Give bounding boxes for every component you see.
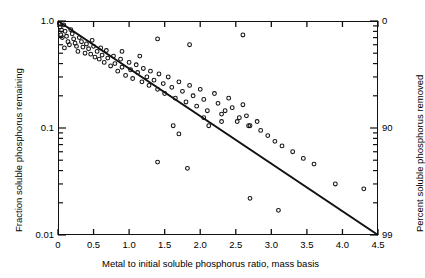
data-point bbox=[216, 101, 220, 105]
data-point bbox=[266, 134, 270, 138]
axis-tick-label: 3.5 bbox=[287, 239, 327, 250]
data-point bbox=[227, 96, 231, 100]
data-point bbox=[191, 94, 195, 98]
data-point bbox=[106, 56, 110, 60]
data-point bbox=[138, 54, 142, 58]
data-point bbox=[72, 37, 76, 41]
data-point bbox=[109, 64, 113, 68]
y-axis-title-left: Fraction soluble phosphorus remaining bbox=[13, 68, 24, 232]
data-point bbox=[140, 80, 144, 84]
data-point bbox=[97, 57, 101, 61]
data-point bbox=[312, 162, 316, 166]
axis-tick-label: 1.0 bbox=[109, 239, 149, 250]
data-point bbox=[188, 43, 192, 47]
data-point bbox=[230, 106, 234, 110]
data-point bbox=[63, 29, 67, 33]
axis-tick-label: 90 bbox=[382, 122, 393, 133]
data-point bbox=[170, 85, 174, 89]
data-point bbox=[95, 49, 99, 53]
data-point bbox=[120, 49, 124, 53]
axis-tick-label: 2.0 bbox=[180, 239, 220, 250]
data-point bbox=[220, 120, 224, 124]
data-point bbox=[93, 55, 97, 59]
axis-tick-label: 99 bbox=[382, 229, 393, 240]
data-point bbox=[207, 124, 211, 128]
data-points bbox=[58, 21, 366, 212]
data-point bbox=[81, 45, 85, 49]
axis-tick-label: 1.0 bbox=[18, 15, 54, 26]
regression-line bbox=[58, 21, 378, 235]
data-point bbox=[273, 139, 277, 143]
data-point bbox=[291, 150, 295, 154]
data-point bbox=[85, 42, 89, 46]
data-point bbox=[63, 46, 67, 50]
axis-tick-label: 2.5 bbox=[216, 239, 256, 250]
data-point bbox=[124, 74, 128, 78]
axis-tick-label: 0 bbox=[382, 15, 387, 26]
data-point bbox=[181, 89, 185, 93]
fit-line bbox=[58, 21, 378, 235]
y-axis-ticks-right bbox=[370, 21, 378, 235]
y-axis-ticks-left bbox=[58, 21, 66, 235]
data-point bbox=[157, 72, 161, 76]
data-point bbox=[255, 120, 259, 124]
data-point bbox=[83, 51, 87, 55]
data-point bbox=[141, 67, 145, 71]
data-point bbox=[241, 103, 245, 107]
data-point bbox=[202, 98, 206, 102]
data-point bbox=[186, 166, 190, 170]
data-point bbox=[119, 57, 123, 61]
data-point bbox=[113, 62, 117, 66]
axis-tick-label: 1.5 bbox=[145, 239, 185, 250]
data-point bbox=[120, 65, 124, 69]
data-point bbox=[145, 75, 149, 79]
data-point bbox=[213, 92, 217, 96]
data-point bbox=[333, 182, 337, 186]
data-point bbox=[134, 63, 138, 67]
y-axis-title-right: Percent soluble phosphorus removed bbox=[414, 75, 425, 232]
data-point bbox=[90, 38, 94, 42]
data-point bbox=[220, 112, 224, 116]
data-point bbox=[100, 53, 104, 57]
data-point bbox=[156, 37, 160, 41]
data-point bbox=[205, 109, 209, 113]
data-point bbox=[87, 47, 91, 51]
data-point bbox=[188, 84, 192, 88]
data-point bbox=[280, 144, 284, 148]
data-point bbox=[195, 104, 199, 108]
data-point bbox=[362, 187, 366, 191]
data-point bbox=[65, 34, 69, 38]
data-point bbox=[198, 87, 202, 91]
axis-tick-label: 0 bbox=[38, 239, 78, 250]
data-point bbox=[80, 40, 84, 44]
data-point bbox=[277, 208, 281, 212]
axis-tick-label: 0.5 bbox=[74, 239, 114, 250]
data-point bbox=[259, 128, 263, 132]
axis-tick-label: 4.0 bbox=[322, 239, 362, 250]
data-point bbox=[76, 49, 80, 53]
data-point bbox=[245, 114, 249, 118]
data-point bbox=[177, 80, 181, 84]
data-point bbox=[235, 120, 239, 124]
data-point bbox=[147, 84, 151, 88]
data-point bbox=[127, 61, 131, 65]
data-point bbox=[70, 32, 74, 36]
data-point bbox=[116, 69, 120, 73]
data-point bbox=[184, 100, 188, 104]
data-point bbox=[237, 116, 241, 120]
data-point bbox=[89, 52, 93, 56]
data-point bbox=[152, 78, 156, 82]
data-point bbox=[241, 33, 245, 37]
data-point bbox=[149, 69, 153, 73]
data-point bbox=[248, 196, 252, 200]
data-point bbox=[156, 160, 160, 164]
data-point bbox=[131, 77, 135, 81]
data-point bbox=[301, 156, 305, 160]
data-point bbox=[223, 109, 227, 113]
data-point bbox=[166, 75, 170, 79]
axis-tick-label: 3.0 bbox=[251, 239, 291, 250]
data-point bbox=[161, 82, 165, 86]
data-point bbox=[102, 61, 106, 65]
